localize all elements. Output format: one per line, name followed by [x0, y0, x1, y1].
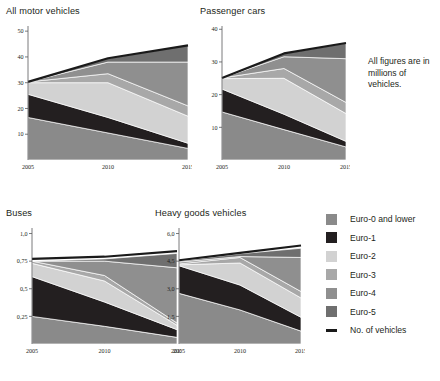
- y-tick-label: 50: [17, 28, 23, 34]
- chart-panel-passenger-cars: Passenger cars 10203040200520102015: [200, 6, 350, 176]
- legend-item-label: Euro-3: [350, 270, 376, 280]
- plot-area: 10203040200520102015: [200, 16, 350, 176]
- plot-area: 1020304050200520102015: [6, 16, 192, 176]
- y-tick-label: 1,0: [20, 231, 28, 237]
- area-chart-svg: 10203040200520102015: [200, 16, 350, 176]
- legend-line-icon: [326, 329, 337, 332]
- y-tick-label: 3,0: [167, 286, 175, 292]
- x-tick-label: 2010: [102, 164, 114, 170]
- y-tick-label: 0,5: [20, 286, 28, 292]
- legend-item-label: Euro-4: [350, 288, 376, 298]
- y-tick-label: 40: [211, 26, 217, 32]
- x-tick-label: 2015: [340, 164, 350, 170]
- x-tick-label: 2015: [182, 164, 192, 170]
- y-tick-label: 10: [17, 131, 23, 137]
- legend-item-label: Euro-0 and lower: [350, 214, 415, 224]
- y-tick-label: 0,25: [17, 314, 28, 320]
- legend-item[interactable]: Euro-4: [326, 284, 415, 303]
- legend-swatch-icon: [326, 269, 337, 280]
- y-tick-label: 30: [17, 80, 23, 86]
- legend-item-label: Euro-1: [350, 233, 376, 243]
- x-tick-label: 2015: [295, 348, 305, 354]
- legend-swatch-icon: [326, 232, 337, 243]
- x-tick-label: 2005: [26, 348, 38, 354]
- legend-swatch-icon: [326, 306, 337, 317]
- chart-title: All motor vehicles: [6, 6, 192, 16]
- x-tick-label: 2005: [173, 348, 185, 354]
- y-tick-label: 6,0: [167, 231, 175, 237]
- y-tick-label: 30: [211, 59, 217, 65]
- legend-item[interactable]: Euro-2: [326, 247, 415, 266]
- chart-panel-all-motor-vehicles: All motor vehicles 102030405020052010201…: [6, 6, 192, 176]
- legend-item-label: Euro-2: [350, 251, 376, 261]
- legend-item[interactable]: Euro-1: [326, 229, 415, 248]
- x-tick-label: 2010: [278, 164, 290, 170]
- y-tick-label: 40: [17, 54, 23, 60]
- x-tick-label: 2005: [216, 164, 228, 170]
- chart-panel-heavy-goods-vehicles: Heavy goods vehicles 1,53,04,56,02005201…: [155, 208, 305, 360]
- legend-item[interactable]: No. of vehicles: [326, 321, 415, 340]
- area-chart-svg: 1,53,04,56,0200520102015: [155, 218, 305, 360]
- y-tick-label: 4,5: [167, 258, 175, 264]
- legend-item[interactable]: Euro-5: [326, 303, 415, 322]
- legend-swatch-icon: [326, 214, 337, 225]
- x-tick-label: 2010: [98, 348, 110, 354]
- y-tick-label: 20: [17, 106, 23, 112]
- chart-title: Passenger cars: [200, 6, 350, 16]
- area-chart-svg: 1020304050200520102015: [6, 16, 192, 176]
- x-tick-label: 2010: [234, 348, 246, 354]
- legend-swatch-icon: [326, 288, 337, 299]
- x-tick-label: 2005: [22, 164, 34, 170]
- y-tick-label: 0,75: [17, 258, 28, 264]
- legend-item[interactable]: Euro-3: [326, 266, 415, 285]
- legend-swatch-icon: [326, 251, 337, 262]
- y-tick-label: 1,5: [167, 314, 175, 320]
- legend-item-label: Euro-5: [350, 307, 376, 317]
- chart-title: Heavy goods vehicles: [155, 208, 305, 218]
- legend-item-label: No. of vehicles: [350, 325, 406, 335]
- y-tick-label: 10: [211, 125, 217, 131]
- plot-area: 1,53,04,56,0200520102015: [155, 218, 305, 360]
- chart-legend: Euro-0 and lower Euro-1 Euro-2 Euro-3 Eu…: [326, 210, 415, 340]
- y-tick-label: 20: [211, 92, 217, 98]
- legend-item[interactable]: Euro-0 and lower: [326, 210, 415, 229]
- units-note: All figures are in millions of vehicles.: [368, 56, 440, 91]
